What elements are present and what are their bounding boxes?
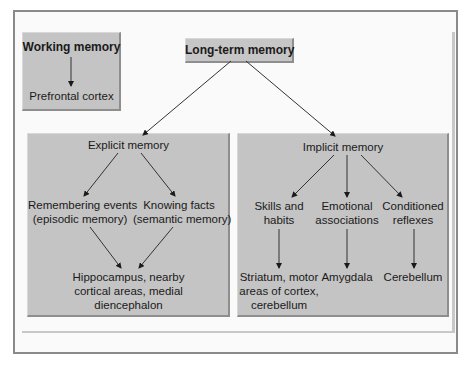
long-term-memory-title: Long-term memory bbox=[185, 43, 294, 57]
frame-divider-vertical bbox=[452, 32, 455, 332]
conditioned-reflexes-label-line2: reflexes bbox=[378, 213, 448, 227]
semantic-memory-label-line2: (semantic memory) bbox=[133, 212, 225, 226]
hippocampus-label-line2: cortical areas, medial bbox=[27, 284, 230, 298]
prefrontal-cortex-label: Prefrontal cortex bbox=[22, 89, 121, 103]
episodic-memory-label-line1: Remembering events bbox=[28, 198, 132, 212]
cerebellum-label: Cerebellum bbox=[378, 270, 448, 284]
hippocampus-label-line1: Hippocampus, nearby bbox=[27, 270, 230, 284]
emotional-associations-label-line2: associations bbox=[312, 213, 382, 227]
implicit-memory-title: Implicit memory bbox=[237, 140, 449, 154]
episodic-memory-label-line2: (episodic memory) bbox=[28, 212, 132, 226]
emotional-associations-label-line1: Emotional bbox=[312, 199, 382, 213]
conditioned-reflexes-label-line1: Conditioned bbox=[378, 199, 448, 213]
striatum-label-line1: Striatum, motor bbox=[238, 270, 320, 284]
skills-habits-label-line2: habits bbox=[244, 213, 314, 227]
frame-divider-horizontal bbox=[22, 331, 455, 333]
striatum-label-line2: areas of cortex, bbox=[238, 284, 320, 298]
striatum-label-line3: cerebellum bbox=[238, 298, 320, 312]
hippocampus-label-line3: diencephalon bbox=[27, 298, 230, 312]
working-memory-title: Working memory bbox=[22, 40, 121, 54]
explicit-memory-title: Explicit memory bbox=[27, 138, 230, 152]
amygdala-label: Amygdala bbox=[312, 270, 382, 284]
semantic-memory-label-line1: Knowing facts bbox=[133, 198, 225, 212]
skills-habits-label-line1: Skills and bbox=[244, 199, 314, 213]
